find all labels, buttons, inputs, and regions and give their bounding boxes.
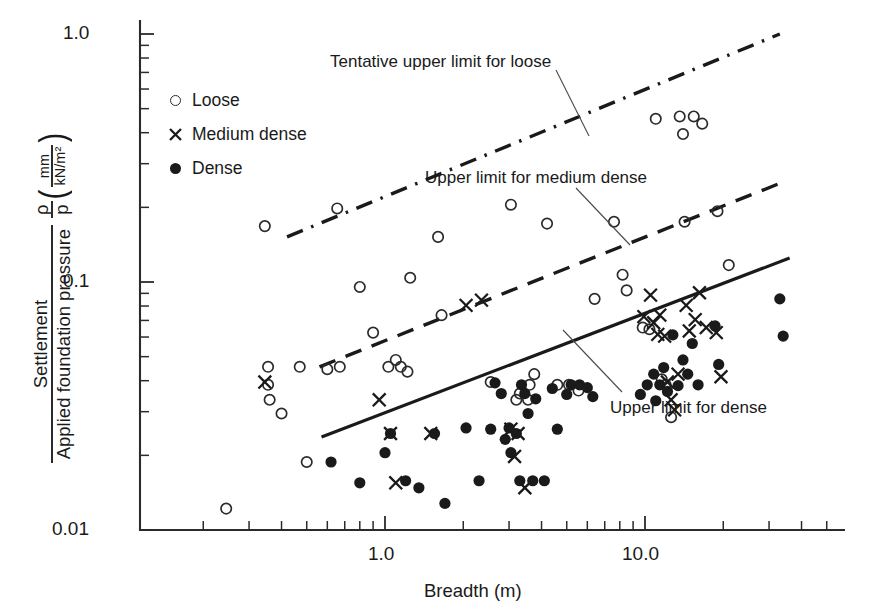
unit-numerator: mm — [37, 152, 52, 180]
point-loose — [589, 294, 599, 304]
rho-over-p: ρ p — [33, 201, 71, 218]
annotation-upper-limit-medium-dense: Upper limit for medium dense — [425, 168, 647, 188]
point-loose — [529, 369, 539, 379]
point-dense — [325, 456, 336, 467]
x-tick-label-1: 1.0 — [368, 543, 394, 565]
legend-item-loose: Loose — [170, 90, 307, 111]
point-loose — [678, 129, 688, 139]
point-loose — [621, 285, 631, 295]
point-loose — [697, 118, 707, 128]
point-dense — [648, 369, 659, 380]
point-dense — [473, 475, 484, 486]
point-medium-dense — [373, 393, 386, 406]
x-marker-icon — [170, 129, 181, 140]
legend-item-dense: Dense — [170, 158, 307, 179]
point-dense — [642, 379, 653, 390]
point-loose — [263, 362, 273, 372]
point-dense — [561, 389, 572, 400]
point-dense — [522, 408, 533, 419]
annotation-tentative-upper-limit-loose: Tentative upper limit for loose — [330, 52, 551, 72]
point-dense — [547, 383, 558, 394]
point-dense — [692, 379, 703, 390]
point-dense — [530, 393, 541, 404]
point-loose — [355, 282, 365, 292]
point-loose — [260, 221, 270, 231]
paren-open: ( — [31, 189, 74, 199]
point-medium-dense — [258, 376, 271, 389]
point-loose — [405, 273, 415, 283]
point-loose — [651, 114, 661, 124]
units-fraction: mm kN/m² — [37, 145, 67, 188]
settlement-vs-breadth-chart: 1.0 0.1 0.01 1.0 10.0 Breadth (m) Settle… — [0, 0, 892, 615]
y-title-symbols: ρ p ( mm kN/m² ) — [33, 133, 71, 218]
point-dense — [662, 386, 673, 397]
point-dense — [485, 424, 496, 435]
point-dense — [511, 428, 522, 439]
open-circle-icon — [170, 95, 181, 106]
point-loose — [295, 362, 305, 372]
point-medium-dense — [389, 476, 402, 489]
point-dense — [552, 424, 563, 435]
point-medium-dense — [653, 309, 666, 322]
point-dense — [778, 331, 789, 342]
point-medium-dense — [680, 299, 693, 312]
point-loose — [332, 203, 342, 213]
point-dense — [379, 447, 390, 458]
point-dense — [527, 475, 538, 486]
point-dense — [413, 482, 424, 493]
point-dense — [587, 391, 598, 402]
point-loose — [276, 408, 286, 418]
legend-label-medium-dense: Medium dense — [192, 124, 307, 145]
point-loose — [506, 199, 516, 209]
point-dense — [774, 293, 785, 304]
point-dense — [514, 475, 525, 486]
point-loose — [542, 218, 552, 228]
point-loose — [436, 310, 446, 320]
point-loose — [264, 395, 274, 405]
legend-label-dense: Dense — [192, 158, 243, 179]
x-axis-title: Breadth (m) — [424, 580, 522, 602]
point-loose — [724, 260, 734, 270]
y-title-fraction: Settlement Applied foundation pressure — [31, 225, 73, 463]
legend: Loose Medium dense Dense — [170, 90, 307, 179]
point-medium-dense — [715, 370, 728, 383]
point-dense — [687, 338, 698, 349]
legend-label-loose: Loose — [192, 90, 240, 111]
point-loose — [302, 457, 312, 467]
point-dense — [354, 477, 365, 488]
point-loose — [617, 270, 627, 280]
point-dense — [505, 447, 516, 458]
point-dense — [519, 388, 530, 399]
point-dense — [709, 320, 720, 331]
point-dense — [658, 362, 669, 373]
point-dense — [667, 329, 678, 340]
annotation-upper-limit-dense: Upper limit for dense — [610, 398, 767, 418]
filled-circle-icon — [170, 163, 181, 174]
point-dense — [682, 369, 693, 380]
y-axis-title: Settlement Applied foundation pressure ρ… — [22, 38, 82, 558]
point-dense — [429, 428, 440, 439]
point-dense — [500, 434, 511, 445]
point-dense — [677, 354, 688, 365]
point-loose — [335, 362, 345, 372]
paren-close: ) — [31, 133, 74, 143]
point-dense — [489, 377, 500, 388]
point-dense — [539, 475, 550, 486]
point-loose — [221, 503, 231, 513]
point-dense — [496, 388, 507, 399]
point-dense — [672, 380, 683, 391]
point-loose — [368, 327, 378, 337]
point-dense — [385, 428, 396, 439]
point-loose — [638, 322, 648, 332]
point-dense — [400, 475, 411, 486]
unit-denominator: kN/m² — [53, 145, 68, 188]
legend-item-medium-dense: Medium dense — [170, 124, 307, 145]
limit-line-upper-limit-medium-dense — [320, 182, 784, 367]
point-medium-dense — [644, 289, 657, 302]
point-loose — [675, 111, 685, 121]
point-dense — [460, 422, 471, 433]
leader-loose — [556, 70, 589, 136]
point-dense — [439, 498, 450, 509]
point-loose — [609, 217, 619, 227]
point-medium-dense — [460, 299, 473, 312]
